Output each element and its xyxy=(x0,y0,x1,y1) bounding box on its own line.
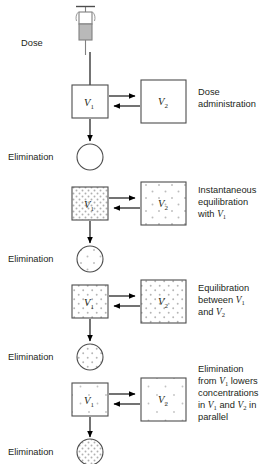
dose-label: Dose xyxy=(21,38,43,48)
panel-caption-line-4: in V1 and V2 in xyxy=(198,400,256,411)
elimination-circle xyxy=(77,344,103,370)
elimination-circle xyxy=(77,246,103,272)
panel-caption-line-3: and V2 xyxy=(198,307,225,318)
two-compartment-model-figure: Dose V1 V2 Elimination Dose administrati… xyxy=(0,0,275,464)
elimination-label: Elimination xyxy=(8,254,53,264)
panel-caption-line-2: from V1 lowers xyxy=(198,376,258,387)
panel-caption-line-1: Equilibration xyxy=(198,283,249,293)
panel-caption-line-1: Dose xyxy=(198,87,220,97)
panel-caption-line-2: between V1 xyxy=(198,295,245,306)
panel-caption-line-1: Elimination xyxy=(198,364,243,374)
panel-instantaneous-equilibration: V1 V2 Elimination Instantaneous equilibr… xyxy=(8,182,257,272)
pharmacokinetic-diagram: Dose V1 V2 Elimination Dose administrati… xyxy=(0,0,275,464)
elimination-label: Elimination xyxy=(8,352,53,362)
panel-caption-line-3: with V1 xyxy=(197,209,226,220)
panel-caption-line-1: Instantaneous xyxy=(198,185,257,195)
elimination-circle xyxy=(77,439,103,464)
panel-caption-line-2: equilibration xyxy=(198,197,248,207)
elimination-label: Elimination xyxy=(8,152,53,162)
elimination-label: Elimination xyxy=(8,447,53,457)
panel-caption-line-5: parallel xyxy=(198,412,228,422)
panel-caption-line-3: concentrations xyxy=(198,388,259,398)
panel-caption-line-2: administration xyxy=(198,99,256,109)
syringe-icon xyxy=(76,6,95,55)
panel-equilibration-between: V1 V2 Elimination Equilibration between … xyxy=(8,280,249,370)
compartment-v2-label: V2 xyxy=(158,96,168,110)
elimination-circle xyxy=(77,144,103,170)
compartment-v1-label: V1 xyxy=(84,97,94,111)
panel-dose-administration: V1 V2 Elimination Dose administration xyxy=(8,80,256,170)
panel-elimination-parallel: V1 V2 Elimination Elimination from V1 lo… xyxy=(8,364,259,464)
